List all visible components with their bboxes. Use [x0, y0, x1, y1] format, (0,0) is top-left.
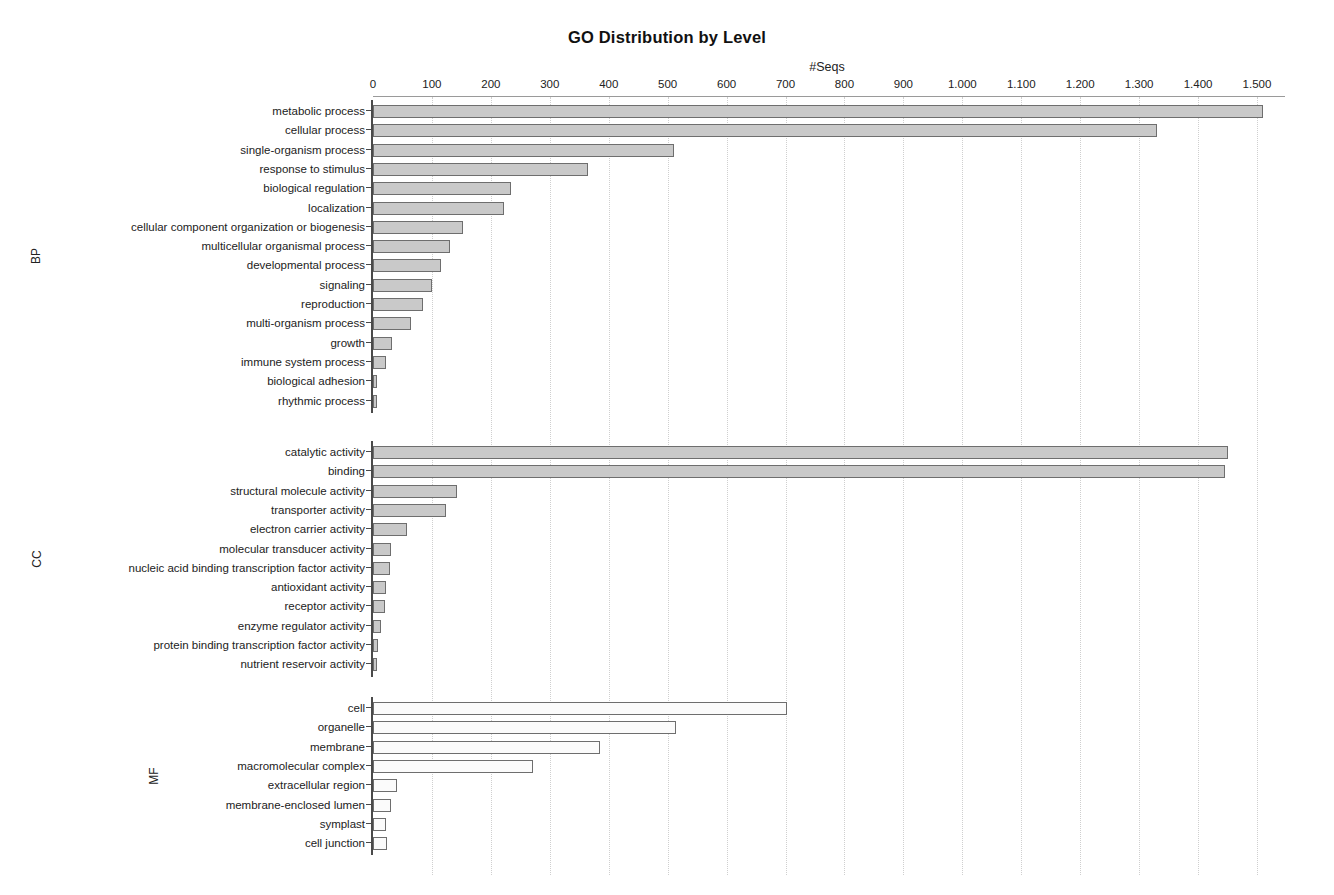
category-label: extracellular region [0, 777, 365, 793]
bar-row[interactable]: binding [0, 463, 1334, 479]
bar[interactable] [373, 202, 504, 215]
bar[interactable] [373, 124, 1157, 137]
bar-row[interactable]: multi-organism process [0, 315, 1334, 331]
bar[interactable] [373, 163, 588, 176]
category-label: catalytic activity [0, 444, 365, 460]
bar-row[interactable]: structural molecule activity [0, 483, 1334, 499]
bar[interactable] [373, 182, 511, 195]
bar[interactable] [373, 523, 407, 536]
bar[interactable] [373, 543, 391, 556]
category-label: immune system process [0, 354, 365, 370]
x-axis-rule [373, 96, 1285, 97]
bar-row[interactable]: growth [0, 335, 1334, 351]
bar[interactable] [373, 639, 378, 652]
category-label: localization [0, 200, 365, 216]
bar[interactable] [373, 259, 441, 272]
bar-row[interactable]: receptor activity [0, 598, 1334, 614]
bar[interactable] [373, 620, 381, 633]
category-label: biological adhesion [0, 373, 365, 389]
bar-row[interactable]: catalytic activity [0, 444, 1334, 460]
category-label: transporter activity [0, 502, 365, 518]
bar[interactable] [373, 760, 533, 773]
bar-row[interactable]: single-organism process [0, 142, 1334, 158]
bar[interactable] [373, 465, 1225, 478]
bar[interactable] [373, 581, 386, 594]
bar[interactable] [373, 337, 392, 350]
bar[interactable] [373, 317, 411, 330]
bar[interactable] [373, 721, 676, 734]
bar-row[interactable]: electron carrier activity [0, 521, 1334, 537]
bar[interactable] [373, 837, 387, 850]
bar-row[interactable]: metabolic process [0, 103, 1334, 119]
category-label: electron carrier activity [0, 521, 365, 537]
bar-row[interactable]: organelle [0, 719, 1334, 735]
category-label: membrane-enclosed lumen [0, 797, 365, 813]
bar[interactable] [373, 818, 386, 831]
bar-row[interactable]: immune system process [0, 354, 1334, 370]
bar-row[interactable]: cellular component organization or bioge… [0, 219, 1334, 235]
bar[interactable] [373, 240, 450, 253]
bar[interactable] [373, 562, 390, 575]
bar-row[interactable]: nucleic acid binding transcription facto… [0, 560, 1334, 576]
bar-row[interactable]: cellular process [0, 122, 1334, 138]
bar[interactable] [373, 799, 391, 812]
bar-row[interactable]: macromolecular complex [0, 758, 1334, 774]
category-tick [366, 303, 372, 304]
category-label: structural molecule activity [0, 483, 365, 499]
x-tick-label: 1.200 [1050, 78, 1110, 90]
bar-row[interactable]: transporter activity [0, 502, 1334, 518]
bar[interactable] [373, 375, 377, 388]
bar-row[interactable]: protein binding transcription factor act… [0, 637, 1334, 653]
bar-row[interactable]: nutrient reservoir activity [0, 656, 1334, 672]
bar-row[interactable]: reproduction [0, 296, 1334, 312]
bar[interactable] [373, 741, 600, 754]
category-label: molecular transducer activity [0, 541, 365, 557]
bar-row[interactable]: membrane-enclosed lumen [0, 797, 1334, 813]
bar-row[interactable]: symplast [0, 816, 1334, 832]
bar-row[interactable]: extracellular region [0, 777, 1334, 793]
bar-row[interactable]: antioxidant activity [0, 579, 1334, 595]
category-tick [366, 804, 372, 805]
bar-row[interactable]: membrane [0, 739, 1334, 755]
bar[interactable] [373, 658, 377, 671]
x-tick-label: 1.000 [932, 78, 992, 90]
bar[interactable] [373, 279, 432, 292]
bar-row[interactable]: rhythmic process [0, 393, 1334, 409]
bar-row[interactable]: multicellular organismal process [0, 238, 1334, 254]
bar-row[interactable]: localization [0, 200, 1334, 216]
bar[interactable] [373, 702, 787, 715]
bar-row[interactable]: developmental process [0, 257, 1334, 273]
category-label: organelle [0, 719, 365, 735]
bar[interactable] [373, 485, 457, 498]
category-tick [366, 470, 372, 471]
bar[interactable] [373, 144, 674, 157]
x-tick-label: 600 [697, 78, 757, 90]
category-label: rhythmic process [0, 393, 365, 409]
category-tick [366, 264, 372, 265]
bar-row[interactable]: cell junction [0, 835, 1334, 851]
bar-row[interactable]: signaling [0, 277, 1334, 293]
category-tick [366, 245, 372, 246]
bar[interactable] [373, 395, 377, 408]
bar-row[interactable]: response to stimulus [0, 161, 1334, 177]
x-tick-label: 1.100 [991, 78, 1051, 90]
bar[interactable] [373, 105, 1263, 118]
bar[interactable] [373, 356, 386, 369]
category-tick [366, 129, 372, 130]
bar-row[interactable]: biological regulation [0, 180, 1334, 196]
bar[interactable] [373, 298, 423, 311]
bar[interactable] [373, 221, 463, 234]
x-tick-label: 1.300 [1109, 78, 1169, 90]
bar[interactable] [373, 504, 446, 517]
x-tick-label: 100 [402, 78, 462, 90]
bar[interactable] [373, 779, 397, 792]
category-label: growth [0, 335, 365, 351]
bar-row[interactable]: molecular transducer activity [0, 541, 1334, 557]
bar-row[interactable]: biological adhesion [0, 373, 1334, 389]
bar-row[interactable]: cell [0, 700, 1334, 716]
bar-row[interactable]: enzyme regulator activity [0, 618, 1334, 634]
category-label: nucleic acid binding transcription facto… [0, 560, 365, 576]
category-label: protein binding transcription factor act… [0, 637, 365, 653]
bar[interactable] [373, 600, 385, 613]
bar[interactable] [373, 446, 1228, 459]
